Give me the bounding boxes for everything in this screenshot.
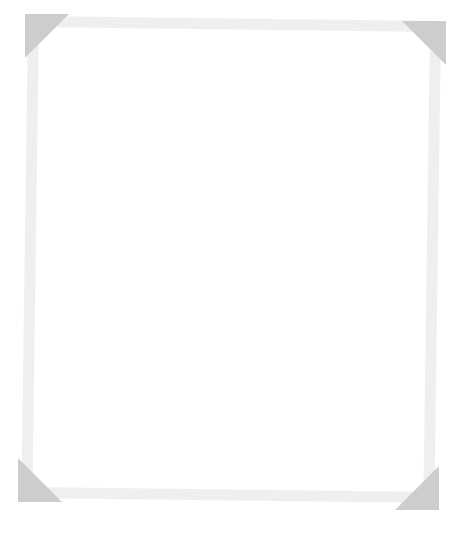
frame-bottom-edge xyxy=(24,487,434,503)
corner-mount-bottom-left xyxy=(18,458,62,502)
corner-mount-bottom-right xyxy=(395,466,439,510)
frame-top-edge xyxy=(30,16,440,32)
frame-left-edge xyxy=(21,20,39,492)
frame-right-edge xyxy=(423,26,441,496)
corner-mount-top-left xyxy=(25,14,69,58)
corner-mount-top-right xyxy=(402,21,446,65)
